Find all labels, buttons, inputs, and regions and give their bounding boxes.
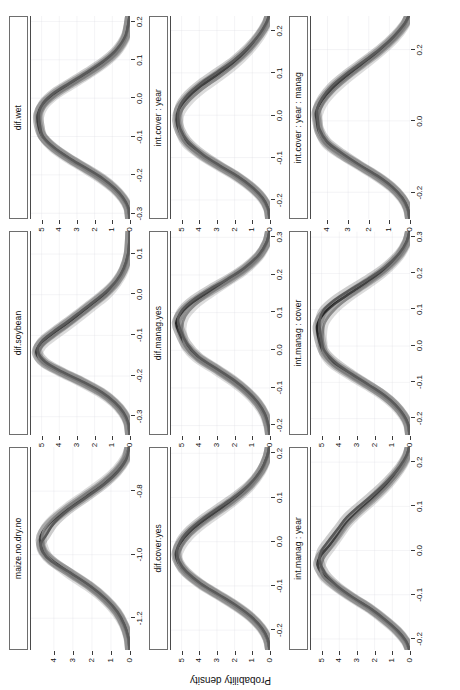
density-curves: [31, 16, 130, 219]
density-curves: [311, 16, 410, 219]
y-tick-label: 5: [38, 227, 46, 231]
y-tick-label: 0: [266, 443, 274, 447]
y-tick: [235, 220, 236, 224]
y-tick: [392, 651, 393, 655]
panel-5: int.cover : year-0.2-0.10.00.10.2012345: [146, 10, 286, 225]
density-plot-figure: Probability density maize.no.dry.no-1.2-…: [0, 0, 460, 690]
y-tick: [182, 220, 183, 224]
y-tick: [92, 651, 93, 655]
panel-title: dif.wet: [14, 105, 23, 130]
panel-title: dif.cover.yes: [154, 524, 163, 573]
panel-strip: dif.soybean: [9, 231, 28, 434]
y-tick-label: 0: [406, 227, 414, 231]
x-tick-label: -0.2: [416, 632, 424, 646]
y-tick-label: 0: [126, 443, 134, 447]
x-tick-label: 0.0: [136, 93, 144, 104]
y-tick: [217, 436, 218, 440]
y-tick-label: 0: [266, 227, 274, 231]
y-tick-label: 2: [91, 443, 99, 447]
y-tick: [73, 651, 74, 655]
x-tick-label: -0.2: [276, 418, 284, 432]
density-curves: [311, 231, 410, 434]
plot-area: [311, 16, 410, 219]
panel-strip: dif.manag.yes: [149, 231, 168, 434]
y-tick: [42, 436, 43, 440]
y-tick-label: 3: [213, 443, 221, 447]
x-tick-label: -0.2: [416, 411, 424, 425]
y-tick-label: 3: [213, 658, 221, 662]
plot-box: -0.3-0.2-0.10.00.10.2012345: [30, 16, 130, 219]
x-tick-label: -0.2: [136, 168, 144, 182]
plot-box: -0.2-0.10.00.10.2012345: [170, 447, 270, 650]
x-tick-label: -0.2: [136, 369, 144, 383]
x-tick-label: 0.0: [416, 340, 424, 351]
x-tick-label: 0.1: [276, 307, 284, 318]
y-tick: [252, 436, 253, 440]
y-tick-label: 0: [406, 658, 414, 662]
x-tick-label: 0.1: [416, 304, 424, 315]
y-tick: [410, 220, 411, 224]
y-tick: [199, 651, 200, 655]
y-tick: [375, 436, 376, 440]
x-tick-label: -0.1: [276, 381, 284, 395]
y-tick-label: 2: [91, 227, 99, 231]
y-tick-label: 4: [335, 443, 343, 447]
panel-0: maize.no.dry.no-1.2-1.0-0.801234: [6, 441, 146, 656]
y-tick: [369, 220, 370, 224]
x-tick-label: 0.2: [416, 457, 424, 468]
panel-3: dif.cover.yes-0.2-0.10.00.10.2012345: [146, 441, 286, 656]
y-tick: [54, 651, 55, 655]
y-tick-label: 2: [231, 658, 239, 662]
panel-title: int.manag : cover: [294, 300, 303, 367]
y-tick-label: 0: [126, 227, 134, 231]
y-tick: [217, 220, 218, 224]
plot-box: -0.2-0.10.00.10.2012345: [310, 447, 410, 650]
x-tick-label: 0.0: [416, 116, 424, 127]
x-tick-label: 0.2: [416, 44, 424, 55]
y-tick-label: 5: [38, 443, 46, 447]
y-tick: [112, 436, 113, 440]
y-tick: [252, 651, 253, 655]
y-tick: [270, 651, 271, 655]
plot-box: -0.20.00.201234: [310, 16, 410, 219]
y-tick: [322, 651, 323, 655]
y-tick: [322, 436, 323, 440]
plot-box: -0.3-0.2-0.10.00.1012345: [30, 231, 130, 434]
y-tick-label: 5: [318, 658, 326, 662]
x-tick-label: 0.3: [276, 231, 284, 242]
y-tick: [357, 436, 358, 440]
panel-title: int.cover : year: [154, 89, 163, 146]
y-tick: [95, 220, 96, 224]
y-tick: [270, 436, 271, 440]
y-tick-label: 2: [231, 227, 239, 231]
x-tick-label: 0.0: [416, 545, 424, 556]
y-tick-label: 4: [323, 227, 331, 231]
panel-title: maize.no.dry.no: [14, 518, 23, 579]
x-tick-label: 0.2: [416, 268, 424, 279]
density-curves: [171, 16, 270, 219]
panel-6: int.manag : year-0.2-0.10.00.10.2012345: [286, 441, 426, 656]
x-tick-label: -0.1: [416, 588, 424, 602]
x-tick-label: -0.3: [136, 207, 144, 221]
y-tick: [130, 220, 131, 224]
y-tick: [199, 220, 200, 224]
y-tick-label: 3: [73, 227, 81, 231]
y-tick-label: 0: [266, 658, 274, 662]
x-tick-label: 0.0: [276, 536, 284, 547]
x-tick-label: 0.1: [416, 501, 424, 512]
y-tick-label: 1: [107, 658, 115, 662]
y-tick: [77, 220, 78, 224]
x-tick-label: -0.2: [416, 186, 424, 200]
panel-4: dif.manag.yes-0.2-0.10.00.10.20.3012345: [146, 225, 286, 440]
y-tick-label: 3: [353, 658, 361, 662]
y-tick: [77, 436, 78, 440]
x-tick-label: -0.8: [136, 484, 144, 498]
y-tick: [42, 220, 43, 224]
y-tick-label: 1: [108, 443, 116, 447]
plot-area: [311, 231, 410, 434]
density-curves: [171, 231, 270, 434]
y-tick: [95, 436, 96, 440]
y-tick: [130, 651, 131, 655]
y-tick-label: 1: [248, 443, 256, 447]
panel-strip: int.cover : year: [149, 16, 168, 219]
